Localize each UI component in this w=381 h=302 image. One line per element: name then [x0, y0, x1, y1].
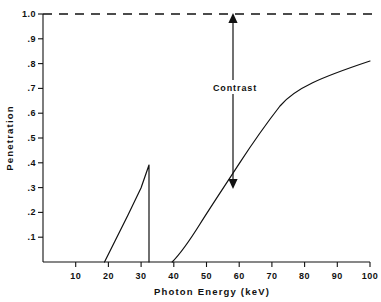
y-tick-label: .8 [27, 59, 36, 69]
y-axis-title: Penetration [4, 105, 15, 170]
x-tick-labels: 10 20 30 40 50 60 70 80 90 100 [70, 271, 378, 281]
y-tick-label: .3 [27, 183, 36, 193]
penetration-vs-photon-energy-chart: 1.0 .9 .8 .7 .6 .5 .4 .3 .2 .1 10 20 30 … [0, 0, 381, 302]
y-tick-label: .5 [27, 133, 36, 143]
y-tick-label: .7 [27, 83, 36, 93]
y-tick-label: 1.0 [22, 9, 36, 19]
x-tick-label: 60 [234, 271, 245, 281]
high-energy-penetration-curve [172, 61, 370, 262]
x-axis-title: Photon Energy (keV) [154, 286, 270, 297]
x-tick-label: 50 [201, 271, 212, 281]
x-tick-label: 40 [168, 271, 179, 281]
x-tick-label: 30 [136, 271, 147, 281]
contrast-arrow-head-down [228, 179, 237, 189]
low-energy-peak-curve [105, 165, 150, 262]
y-tick-labels: 1.0 .9 .8 .7 .6 .5 .4 .3 .2 .1 [22, 9, 36, 242]
x-tick-label: 70 [266, 271, 277, 281]
y-tick-label: .2 [27, 207, 36, 217]
y-tick-marks [38, 14, 43, 237]
contrast-label: Contrast [213, 83, 257, 93]
y-tick-label: .6 [27, 108, 36, 118]
y-tick-label: .9 [27, 34, 36, 44]
x-tick-label: 90 [332, 271, 343, 281]
x-tick-label: 80 [299, 271, 310, 281]
y-tick-label: .4 [27, 158, 36, 168]
y-tick-label: .1 [27, 232, 36, 242]
contrast-annotation: Contrast [207, 13, 263, 189]
x-tick-label: 10 [70, 271, 81, 281]
x-tick-label: 20 [103, 271, 114, 281]
x-tick-label: 100 [362, 271, 379, 281]
x-tick-marks [76, 262, 370, 267]
